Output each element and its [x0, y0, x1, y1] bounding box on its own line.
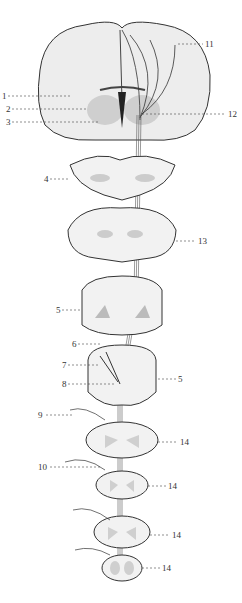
medulla-lower-section — [88, 345, 156, 405]
label-14-a: 14 — [180, 438, 189, 447]
pons-section — [68, 208, 176, 262]
label-5-right: 5 — [178, 375, 183, 384]
label-14-d: 14 — [162, 564, 171, 573]
label-1: 1 — [2, 92, 7, 101]
label-12: 12 — [228, 110, 237, 119]
cerebrum-section — [38, 22, 210, 140]
label-8: 8 — [62, 380, 67, 389]
anatomy-diagram — [0, 0, 242, 603]
label-14-b: 14 — [168, 482, 177, 491]
label-2: 2 — [6, 105, 11, 114]
label-7: 7 — [62, 361, 67, 370]
label-10: 10 — [38, 463, 47, 472]
midbrain-section — [70, 156, 175, 200]
label-11: 11 — [205, 40, 214, 49]
label-14-c: 14 — [172, 531, 181, 540]
medulla-upper-section — [82, 276, 162, 335]
label-4: 4 — [44, 175, 49, 184]
label-3: 3 — [6, 118, 11, 127]
label-6: 6 — [72, 340, 77, 349]
label-9: 9 — [38, 411, 43, 420]
label-5-left: 5 — [56, 306, 61, 315]
label-13: 13 — [198, 237, 207, 246]
